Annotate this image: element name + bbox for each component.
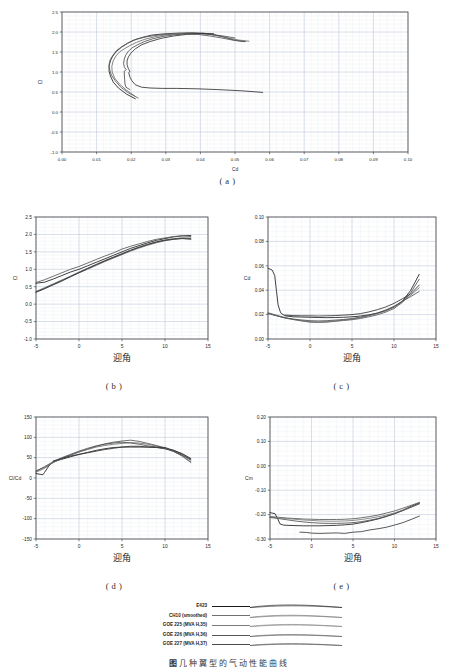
svg-text:10: 10 xyxy=(162,344,168,349)
svg-text:-5: -5 xyxy=(34,344,39,349)
legend-item-label: CH10 (smoothed) xyxy=(120,611,212,621)
figure-caption-text: 几 种 翼 型 的 气 动 性 能 曲 线 xyxy=(179,659,287,667)
caption-d: ( d ) xyxy=(0,581,228,591)
svg-text:-100: -100 xyxy=(22,516,32,521)
airfoil-legend: E423CH10 (smoothed)GOE 225 (MVA H,35)GOE… xyxy=(120,601,350,651)
legend-item: GOE 225 (MVA H,35) xyxy=(120,620,350,630)
svg-text:0.00: 0.00 xyxy=(58,157,67,162)
svg-text:0.04: 0.04 xyxy=(255,288,265,293)
svg-text:0: 0 xyxy=(29,476,32,481)
svg-text:15: 15 xyxy=(205,544,211,549)
chart-d-block: -5051015150100500-50-100-150Cl/Cd迎角 xyxy=(0,407,228,567)
airfoil-profile-icon xyxy=(250,611,346,621)
legend-item: GOE 227 (MVA H,37) xyxy=(120,639,350,649)
svg-text:5: 5 xyxy=(121,344,124,349)
svg-text:5: 5 xyxy=(352,544,355,549)
chart-d-plot: -5051015150100500-50-100-150Cl/Cd迎角 xyxy=(0,407,228,567)
legend-color-swatch xyxy=(212,620,250,630)
svg-text:0.10: 0.10 xyxy=(255,215,265,220)
svg-text:Cl: Cl xyxy=(38,79,43,85)
svg-text:0.10: 0.10 xyxy=(257,439,267,444)
airfoil-profile-icon xyxy=(250,620,346,630)
svg-text:0.02: 0.02 xyxy=(127,157,136,162)
svg-text:0: 0 xyxy=(310,544,313,549)
svg-text:2.0: 2.0 xyxy=(25,232,32,237)
svg-text:1.5: 1.5 xyxy=(25,250,32,255)
airfoil-profile-icon xyxy=(250,630,346,640)
svg-text:0.0: 0.0 xyxy=(52,110,59,115)
svg-text:-0.5: -0.5 xyxy=(24,319,33,324)
svg-text:100: 100 xyxy=(24,435,32,440)
figure-page: 0.000.010.020.030.040.050.060.070.080.09… xyxy=(0,0,455,667)
caption-b: ( b ) xyxy=(0,381,228,391)
svg-text:0.02: 0.02 xyxy=(255,312,265,317)
svg-text:1.0: 1.0 xyxy=(52,70,59,75)
svg-text:0.20: 0.20 xyxy=(257,415,267,420)
svg-text:-1.0: -1.0 xyxy=(24,337,33,342)
chart-c-plot: -50510150.100.080.060.040.020.00Cd迎角 xyxy=(228,207,455,367)
series-line xyxy=(300,516,420,533)
legend-item-label: GOE 226 (MVA H,36) xyxy=(120,630,212,640)
svg-text:0.0: 0.0 xyxy=(25,302,32,307)
legend-color-swatch xyxy=(212,630,250,640)
svg-text:10: 10 xyxy=(391,344,397,349)
series-line xyxy=(124,34,235,90)
svg-text:2.5: 2.5 xyxy=(25,215,32,220)
chart-a-plot: 0.000.010.020.030.040.050.060.070.080.09… xyxy=(0,0,455,178)
legend-item: CH10 (smoothed) xyxy=(120,611,350,621)
series-line xyxy=(127,34,263,93)
legend-item: E423 xyxy=(120,601,350,611)
svg-text:迎角: 迎角 xyxy=(344,552,362,563)
svg-text:150: 150 xyxy=(24,415,32,420)
svg-text:Cd: Cd xyxy=(232,167,238,172)
chart-e-block: -50510150.200.100.00-0.10-0.20-0.30Cm迎角 xyxy=(228,407,455,567)
svg-text:0.08: 0.08 xyxy=(335,157,344,162)
svg-text:0.05: 0.05 xyxy=(231,157,240,162)
svg-text:1.0: 1.0 xyxy=(25,267,32,272)
svg-text:-150: -150 xyxy=(22,537,32,542)
svg-text:0.03: 0.03 xyxy=(162,157,171,162)
legend-color-swatch xyxy=(212,601,250,611)
svg-text:0.06: 0.06 xyxy=(255,264,265,269)
svg-text:0.00: 0.00 xyxy=(257,464,267,469)
chart-e-plot: -50510150.200.100.00-0.10-0.20-0.30Cm迎角 xyxy=(228,407,455,567)
svg-text:-5: -5 xyxy=(266,344,271,349)
chart-a-block: 0.000.010.020.030.040.050.060.070.080.09… xyxy=(0,0,455,178)
legend-item-label: GOE 225 (MVA H,35) xyxy=(120,620,212,630)
legend-item-label: E423 xyxy=(120,601,212,611)
svg-text:-0.10: -0.10 xyxy=(255,488,266,493)
svg-text:迎角: 迎角 xyxy=(113,352,131,363)
svg-text:迎角: 迎角 xyxy=(343,352,361,363)
svg-text:迎角: 迎角 xyxy=(113,552,131,563)
svg-text:-5: -5 xyxy=(268,544,273,549)
svg-text:5: 5 xyxy=(121,544,124,549)
svg-text:0.07: 0.07 xyxy=(300,157,309,162)
svg-text:0.5: 0.5 xyxy=(25,285,32,290)
svg-text:1.5: 1.5 xyxy=(52,50,59,55)
caption-a: ( a ) xyxy=(0,176,455,186)
svg-text:0.00: 0.00 xyxy=(255,337,265,342)
svg-text:2.0: 2.0 xyxy=(52,30,59,35)
svg-text:0.5: 0.5 xyxy=(52,90,59,95)
svg-text:-5: -5 xyxy=(34,544,39,549)
svg-text:2.5: 2.5 xyxy=(52,10,59,15)
svg-text:-0.30: -0.30 xyxy=(255,537,266,542)
svg-text:Cd: Cd xyxy=(244,275,251,281)
svg-text:0.06: 0.06 xyxy=(265,157,274,162)
svg-text:0.08: 0.08 xyxy=(255,239,265,244)
svg-text:10: 10 xyxy=(162,544,168,549)
chart-b-block: -50510152.52.01.51.00.50.0-0.5-1.0Cl迎角 xyxy=(0,207,228,367)
svg-text:0.01: 0.01 xyxy=(92,157,101,162)
legend-item-label: GOE 227 (MVA H,37) xyxy=(120,639,212,649)
svg-text:-1.0: -1.0 xyxy=(50,150,58,155)
figure-bottom-caption: 图 几 种 翼 型 的 气 动 性 能 曲 线 xyxy=(0,657,455,667)
svg-text:Cm: Cm xyxy=(245,475,253,481)
svg-text:-0.20: -0.20 xyxy=(255,512,266,517)
figure-caption-label: 图 xyxy=(169,659,177,667)
svg-text:0.10: 0.10 xyxy=(404,157,413,162)
legend-item: GOE 226 (MVA H,36) xyxy=(120,630,350,640)
chart-b-plot: -50510152.52.01.51.00.50.0-0.5-1.0Cl迎角 xyxy=(0,207,228,367)
series-line xyxy=(112,33,249,96)
svg-text:-50: -50 xyxy=(25,496,32,501)
svg-text:50: 50 xyxy=(27,455,33,460)
